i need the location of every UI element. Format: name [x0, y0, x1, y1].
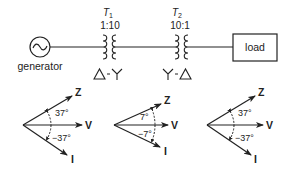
angle-arc-top [152, 109, 155, 125]
angle-arc-bottom [230, 125, 234, 139]
angle-top-label: 37° [238, 108, 252, 118]
sine-wave-icon [33, 44, 47, 50]
t1-ratio: 1:10 [100, 20, 120, 31]
t2-primary-coil-icon [175, 35, 179, 59]
angle-bottom-label: −37° [235, 133, 254, 143]
i-label: I [164, 145, 167, 157]
delta-icon [180, 69, 191, 79]
phasor-diagram-2: Z V I 7° −7° [114, 94, 178, 157]
t2-ratio: 10:1 [170, 20, 190, 31]
v-label: V [171, 119, 178, 131]
load-label: load [245, 41, 265, 53]
transformer-t1: T1 1:10 [94, 7, 122, 80]
v-label: V [85, 119, 92, 131]
angle-arc-top [47, 111, 51, 125]
delta-icon [94, 69, 105, 79]
z-arrow-icon [114, 104, 161, 125]
wye-icon [112, 69, 122, 80]
t2-name: T2 [172, 7, 182, 19]
wye-icon [163, 69, 173, 80]
angle-arc-bottom [152, 125, 155, 141]
angle-arc-bottom [47, 125, 51, 139]
phasor-diagram-1: Z V I 37° −37° [23, 86, 92, 165]
angle-top-label: 7° [140, 112, 149, 122]
angle-bottom-label: −37° [52, 133, 71, 143]
i-label: I [71, 153, 74, 165]
z-label: Z [164, 94, 171, 106]
generator-label: generator [18, 60, 63, 72]
t1-connection [94, 69, 122, 80]
t1-secondary-coil-icon [112, 35, 116, 59]
angle-top-label: 37° [55, 108, 69, 118]
t2-connection [163, 69, 191, 80]
z-label: Z [258, 86, 265, 98]
load: load [233, 34, 277, 61]
z-label: Z [75, 86, 82, 98]
v-label: V [266, 119, 273, 131]
t1-name: T1 [103, 7, 113, 19]
transformer-t2: T2 10:1 [163, 7, 191, 80]
i-label: I [254, 153, 257, 165]
t1-primary-coil-icon [103, 35, 107, 59]
angle-arc-top [230, 111, 234, 125]
angle-bottom-label: −7° [138, 129, 152, 139]
t2-secondary-coil-icon [184, 35, 188, 59]
phasor-diagram-3: Z V I 37° −37° [207, 86, 273, 165]
generator: generator [18, 37, 63, 72]
power-system-diagram: generator T1 1:10 T2 10:1 load [0, 0, 291, 176]
